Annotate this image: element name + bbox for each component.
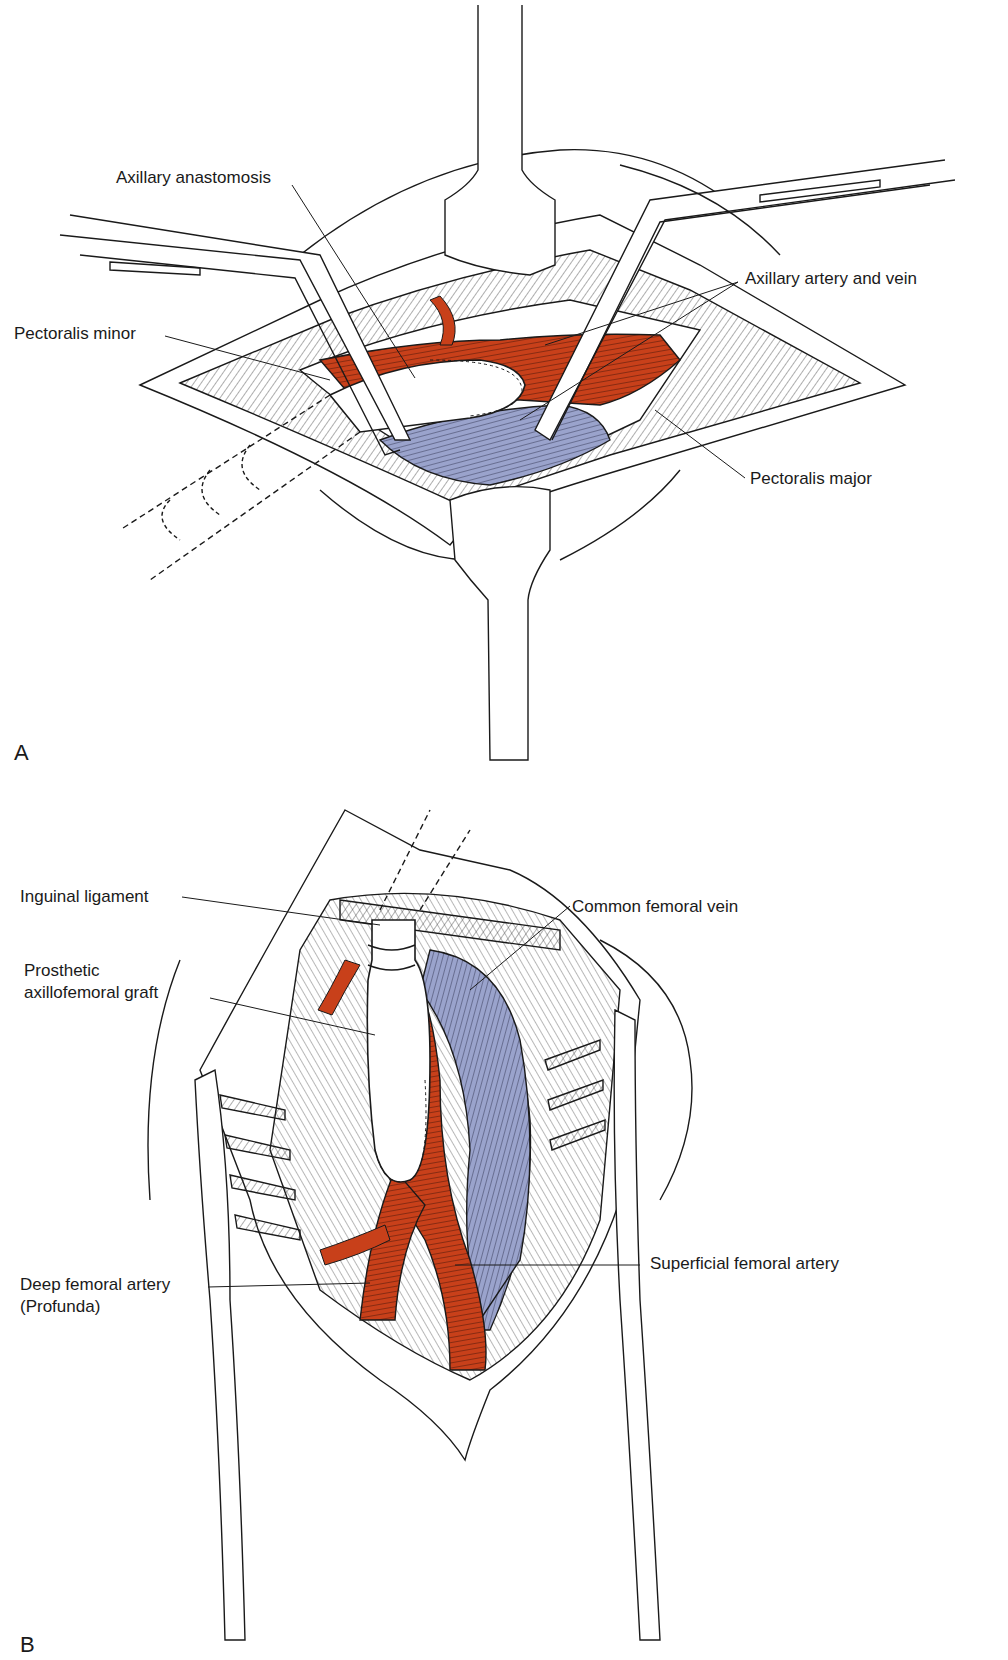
- label-pectoralis-major: Pectoralis major: [750, 468, 872, 490]
- label-deep-femoral-artery-line2: (Profunda): [20, 1296, 100, 1318]
- label-axillary-artery-and-vein: Axillary artery and vein: [745, 268, 917, 290]
- label-deep-femoral-artery-line1: Deep femoral artery: [20, 1274, 170, 1296]
- label-prosthetic-graft-line2: axillofemoral graft: [24, 982, 158, 1004]
- label-superficial-femoral-artery: Superficial femoral artery: [650, 1253, 839, 1275]
- label-pectoralis-minor: Pectoralis minor: [14, 323, 136, 345]
- panel-a-drawing: [60, 5, 955, 760]
- label-prosthetic-graft-line1: Prosthetic: [24, 960, 100, 982]
- panel-b-drawing: [148, 810, 692, 1640]
- label-common-femoral-vein: Common femoral vein: [572, 896, 738, 918]
- panel-letter-a: A: [14, 740, 29, 766]
- surgical-illustration: [0, 0, 1008, 1660]
- label-axillary-anastomosis: Axillary anastomosis: [116, 167, 271, 189]
- panel-letter-b: B: [20, 1632, 35, 1658]
- label-inguinal-ligament: Inguinal ligament: [20, 886, 149, 908]
